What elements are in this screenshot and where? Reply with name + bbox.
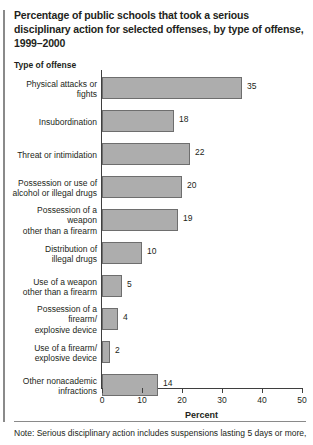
x-axis-tick: [182, 388, 183, 393]
bar-value-label: 19: [183, 213, 192, 223]
bar: [102, 242, 142, 264]
bar-value-label: 5: [127, 279, 132, 289]
chart-plot-area: Type of offense Physical attacks or figh…: [0, 58, 313, 403]
bar-category-label: Possession of a weaponother than a firea…: [11, 205, 97, 237]
bar-category-label: Possession of a firearm/explosive device: [11, 304, 97, 336]
bar: [102, 374, 158, 396]
x-axis-tick-label: 50: [297, 395, 306, 405]
footer-divider: [14, 421, 306, 422]
bar: [102, 110, 174, 132]
bar: [102, 176, 182, 198]
chart-title: Percentage of public schools that took a…: [14, 8, 304, 50]
bar-row: Physical attacks or fights35: [0, 72, 313, 105]
x-axis-tick: [222, 388, 223, 393]
bar-category-label: Use of a weaponother than a firearm: [11, 276, 97, 297]
x-axis-tick: [142, 388, 143, 393]
bar-category-label: Insubordination: [11, 116, 97, 127]
bar: [102, 77, 242, 99]
bar-value-label: 22: [195, 147, 204, 157]
x-axis-tick: [302, 388, 303, 393]
bar: [102, 209, 178, 231]
bar-category-label: Distribution ofillegal drugs: [11, 243, 97, 264]
bar-row: Threat or intimidation22: [0, 138, 313, 171]
bar-category-label: Possession or use ofalcohol or illegal d…: [11, 177, 97, 198]
x-axis-tick: [102, 388, 103, 393]
bar-row: Use of a firearm/explosive device2: [0, 336, 313, 369]
bar-category-label: Other nonacademicinfractions: [11, 375, 97, 396]
bar-value-label: 14: [163, 378, 172, 388]
x-axis-tick-label: 40: [257, 395, 266, 405]
bar: [102, 275, 122, 297]
bar-row: Possession of a firearm/explosive device…: [0, 303, 313, 336]
bar-category-label: Use of a firearm/explosive device: [11, 342, 97, 363]
bar-value-label: 4: [123, 312, 128, 322]
bar-value-label: 2: [115, 345, 120, 355]
x-axis-tick-label: 20: [177, 395, 186, 405]
bar-row: Possession of a weaponother than a firea…: [0, 204, 313, 237]
x-axis-tick: [262, 388, 263, 393]
x-axis-title: Percent: [101, 410, 302, 420]
bar-value-label: 35: [247, 81, 256, 91]
bar-value-label: 18: [179, 114, 188, 124]
chart-note: Note: Serious disciplinary action includ…: [14, 428, 310, 439]
category-axis-header: Type of offense: [14, 60, 76, 70]
bar-category-label: Threat or intimidation: [11, 149, 97, 160]
bar-row: Distribution ofillegal drugs10: [0, 237, 313, 270]
bar-value-label: 20: [187, 180, 196, 190]
bar: [102, 308, 118, 330]
bar: [102, 341, 110, 363]
bar-row: Possession or use ofalcohol or illegal d…: [0, 171, 313, 204]
bar-value-label: 10: [147, 246, 156, 256]
x-axis-tick-label: 0: [100, 395, 105, 405]
bar-row: Use of a weaponother than a firearm5: [0, 270, 313, 303]
bar-row: Insubordination18: [0, 105, 313, 138]
x-axis-tick-label: 30: [217, 395, 226, 405]
bar: [102, 143, 190, 165]
x-axis-tick-label: 10: [137, 395, 146, 405]
bar-category-label: Physical attacks or fights: [11, 78, 97, 99]
